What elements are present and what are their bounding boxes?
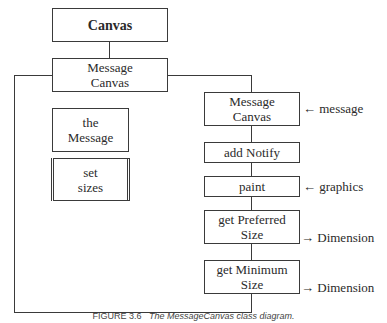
arrow-left-icon: ← <box>303 101 316 116</box>
field-label-line2: sizes <box>78 180 103 195</box>
connector-right-horizontal <box>167 75 252 76</box>
annotation-graphics: ← graphics <box>303 179 363 194</box>
method-label-line2: Size <box>241 227 263 242</box>
method-get-minimum-size: get Minimum Size <box>204 260 300 294</box>
class-name-line1: Message <box>87 60 133 75</box>
canvas-class-box: Canvas <box>52 8 168 42</box>
connector-left-vertical <box>14 75 15 313</box>
annotation-text: Dimension <box>317 230 374 245</box>
method-add-notify: add Notify <box>204 142 300 163</box>
figure-title: The MessageCanvas class diagram. <box>149 311 295 321</box>
annotation-dimension-preferred: → Dimension <box>301 230 374 245</box>
field-label-line1: the <box>83 115 99 130</box>
message-canvas-class-box: Message Canvas <box>52 58 168 92</box>
annotation-text: graphics <box>319 179 363 194</box>
figure-number: FIGURE 3.6 <box>92 311 141 321</box>
field-set-sizes: set sizes <box>51 158 130 201</box>
method-label-line1: add Notify <box>224 145 280 160</box>
method-label-line1: get Minimum <box>216 262 287 277</box>
field-label-line2: Message <box>68 130 114 145</box>
method-message-canvas: Message Canvas <box>204 92 300 126</box>
canvas-class-label: Canvas <box>88 18 132 33</box>
annotation-message: ← message <box>303 101 363 116</box>
method-label-line1: paint <box>239 179 265 194</box>
method-label-line1: Message <box>229 94 275 109</box>
annotation-text: Dimension <box>317 280 374 295</box>
figure-caption: FIGURE 3.6 The MessageCanvas class diagr… <box>0 311 387 321</box>
arrow-left-icon: ← <box>303 179 316 194</box>
method-label-line2: Canvas <box>233 109 271 124</box>
arrow-right-icon: → <box>301 280 314 295</box>
annotation-text: message <box>319 101 363 116</box>
connector-left-horizontal <box>14 75 52 76</box>
method-get-preferred-size: get Preferred Size <box>204 210 300 244</box>
field-label-line1: set <box>83 165 97 180</box>
class-name-line2: Canvas <box>91 75 129 90</box>
method-paint: paint <box>204 176 300 197</box>
arrow-right-icon: → <box>301 230 314 245</box>
method-label-line1: get Preferred <box>218 212 286 227</box>
field-the-message: the Message <box>52 108 129 152</box>
method-label-line2: Size <box>241 277 263 292</box>
connector-root-to-class <box>109 41 110 58</box>
annotation-dimension-minimum: → Dimension <box>301 280 374 295</box>
